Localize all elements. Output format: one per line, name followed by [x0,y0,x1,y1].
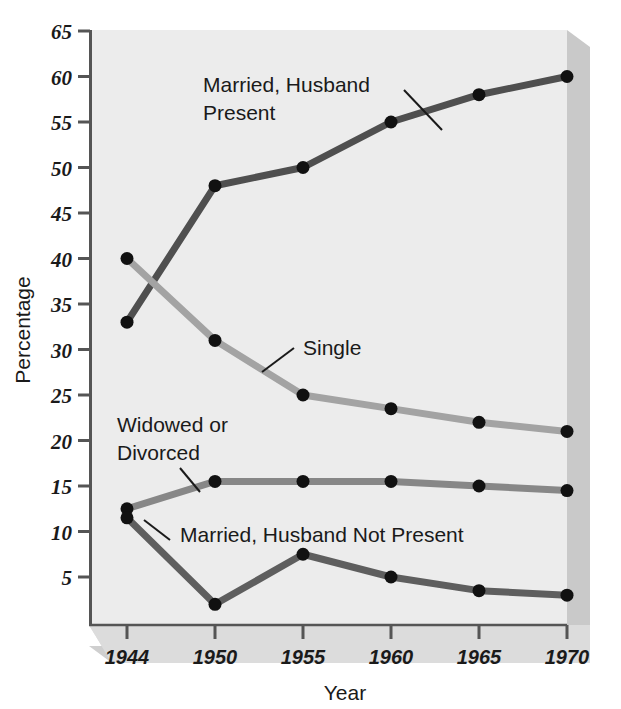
line-chart: 65 60 55 50 45 40 35 30 25 20 15 10 5 19… [0,0,621,709]
annotation-married-husband-present-line1: Married, Husband [203,73,370,96]
annotation-widowed-or-divorced-line1: Widowed or [117,413,228,436]
y-tick-label-25: 25 [50,384,72,408]
data-point-marker [121,316,134,329]
x-axis-title: Year [324,681,366,704]
data-point-marker [385,571,398,584]
y-axis-tick-labels: 65 60 55 50 45 40 35 30 25 20 15 10 5 [50,20,73,590]
data-point-marker [385,116,398,129]
x-axis-band [89,625,590,663]
data-point-marker [209,475,222,488]
data-point-marker [473,584,486,597]
data-point-marker [561,484,574,497]
y-tick-label-35: 35 [50,293,72,317]
y-tick-label-40: 40 [50,248,73,272]
y-tick-label-55: 55 [51,111,72,135]
x-tick-label-1950: 1950 [193,646,238,668]
data-point-marker [473,416,486,429]
y-tick-label-20: 20 [50,430,73,454]
data-point-marker [209,179,222,192]
y-tick-label-60: 60 [51,66,73,90]
x-tick-label-1955: 1955 [281,646,326,668]
data-point-marker [297,161,310,174]
x-tick-label-1960: 1960 [369,646,414,668]
x-tick-label-1944: 1944 [105,646,150,668]
y-tick-label-5: 5 [62,566,73,590]
data-point-marker [121,511,134,524]
data-point-marker [209,334,222,347]
y-axis-title: Percentage [11,276,34,383]
data-point-marker [297,548,310,561]
data-point-marker [561,70,574,83]
data-point-marker [385,402,398,415]
y-tick-label-45: 45 [50,202,72,226]
y-tick-label-65: 65 [51,20,72,44]
data-point-marker [209,598,222,611]
data-point-marker [561,589,574,602]
y-tick-label-30: 30 [50,339,73,363]
annotation-single: Single [303,336,361,359]
annotation-married-husband-present-line2: Present [203,101,276,124]
y-tick-label-10: 10 [51,521,73,545]
y-axis-ticks [78,31,90,577]
x-tick-label-1970: 1970 [545,646,590,668]
annotation-married-husband-not-present: Married, Husband Not Present [180,523,464,546]
data-point-marker [561,425,574,438]
data-point-marker [385,475,398,488]
data-point-marker [121,252,134,265]
data-point-marker [473,480,486,493]
y-tick-label-50: 50 [51,157,73,181]
annotation-widowed-or-divorced-line2: Divorced [117,441,200,464]
data-point-marker [473,88,486,101]
data-point-marker [297,389,310,402]
y-tick-label-15: 15 [51,475,72,499]
data-point-marker [297,475,310,488]
x-tick-label-1965: 1965 [457,646,502,668]
